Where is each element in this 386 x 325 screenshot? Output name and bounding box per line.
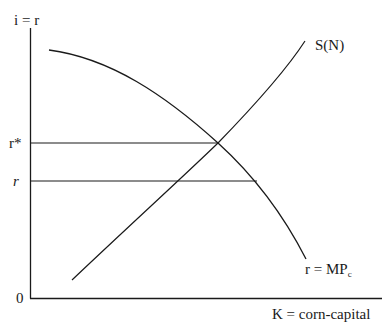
origin-label: 0 (16, 291, 24, 306)
r-star-label: r* (9, 136, 22, 151)
y-axis-label: i = r (14, 13, 39, 28)
r-label: r (13, 174, 19, 189)
mp-curve-label: r = MPc (305, 262, 352, 279)
mp-curve-label-main: r = MP (305, 261, 348, 277)
supply-curve-label: S(N) (315, 38, 344, 53)
supply-curve (72, 41, 305, 280)
x-axis-label: K = corn-capital (272, 307, 370, 322)
marginal-product-curve (49, 50, 306, 259)
mp-curve-label-sub: c (348, 269, 352, 279)
